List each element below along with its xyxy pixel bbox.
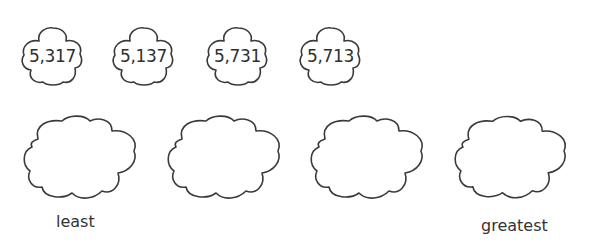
number-value: 5,731 xyxy=(202,46,273,66)
cloud-outline-icon xyxy=(309,115,426,201)
number-cloud-1: 5,317 xyxy=(17,27,88,85)
number-value: 5,137 xyxy=(108,46,179,66)
cloud-outline-icon xyxy=(22,115,139,201)
number-cloud-3: 5,731 xyxy=(202,27,273,85)
number-value: 5,317 xyxy=(17,46,88,66)
least-label: least xyxy=(56,212,95,231)
number-cloud-4: 5,713 xyxy=(295,27,366,85)
number-value: 5,713 xyxy=(295,46,366,66)
answer-cloud-2[interactable] xyxy=(166,115,283,201)
number-cloud-2: 5,137 xyxy=(108,27,179,85)
greatest-label: greatest xyxy=(481,216,548,235)
cloud-outline-icon xyxy=(166,115,283,201)
cloud-outline-icon xyxy=(453,115,569,201)
answer-cloud-3[interactable] xyxy=(309,115,426,201)
answer-cloud-1[interactable] xyxy=(22,115,139,201)
answer-cloud-4[interactable] xyxy=(453,115,569,201)
